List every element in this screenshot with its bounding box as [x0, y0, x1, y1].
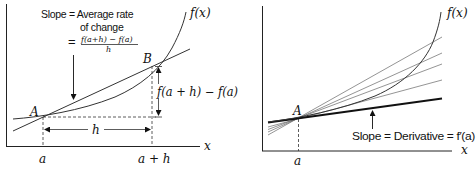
left-x-axis-label: x [204, 139, 211, 153]
right-curve-label: f(x) [446, 6, 468, 20]
left-panel-average-rate: x f(x) A B h f(a + h) − f(a) a a + h Slo… [6, 4, 238, 166]
right-tick-a-label: a [294, 154, 301, 168]
secant-lines-family [268, 37, 442, 135]
annotation-line2: of change [80, 21, 124, 33]
right-point-a-label: A [292, 104, 302, 118]
right-panel-derivative: x f(x) A a Slope = Derivative = f′(a) [262, 6, 475, 168]
left-curve-label: f(x) [189, 6, 211, 20]
derivative-diagram: x f(x) A B h f(a + h) − f(a) a a + h Slo… [0, 0, 476, 170]
derivative-annotation: Slope = Derivative = f′(a) [352, 130, 475, 142]
average-rate-annotation: Slope = Average rate of change = f(a+h) … [41, 8, 138, 99]
fraction-denominator: h [106, 45, 111, 54]
fraction-numerator: f(a+h) − f(a) [80, 35, 133, 44]
annotation-line1: Slope = Average rate [41, 8, 134, 20]
right-x-axis-label: x [461, 143, 468, 157]
h-label: h [92, 123, 100, 137]
tick-a-plus-h-label: a + h [138, 152, 171, 166]
tick-a-label: a [39, 152, 46, 166]
rise-label: f(a + h) − f(a) [156, 85, 238, 99]
annotation-equals: = [68, 34, 75, 49]
point-b-label: B [142, 52, 152, 66]
point-a-label: A [29, 105, 39, 119]
